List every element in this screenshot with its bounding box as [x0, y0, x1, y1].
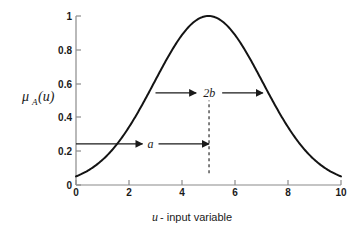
y-tick-label-0: 0 — [66, 180, 72, 191]
y-tick-label-5: 1 — [66, 11, 72, 22]
x-tick-label-2: 4 — [179, 187, 185, 198]
x-axis-caption: u - input variable — [152, 210, 232, 224]
x-tick-label-1: 2 — [126, 187, 132, 198]
y-tick-label-2: 0.4 — [58, 112, 72, 123]
x-axis-caption-variable: u — [152, 210, 158, 224]
y-axis-label-symbol: μ — [21, 89, 29, 104]
y-axis-label-argument: (u) — [38, 89, 55, 105]
center-annotation-label: a — [148, 137, 154, 151]
width-annotation-label: 2b — [203, 86, 215, 100]
x-tick-label-3: 6 — [232, 187, 238, 198]
chart-background — [0, 0, 359, 236]
y-tick-label-4: 0.8 — [58, 45, 72, 56]
x-tick-label-0: 0 — [73, 187, 79, 198]
y-axis-label-subscript: A — [31, 97, 38, 107]
y-tick-label-3: 0.6 — [58, 79, 72, 90]
membership-function-chart: 0 2 4 6 8 10 0 0.2 0.4 0.6 0.8 1 μ A (u)… — [0, 0, 359, 236]
x-tick-label-5: 10 — [335, 187, 347, 198]
x-tick-label-4: 8 — [285, 187, 291, 198]
x-axis-caption-text: - input variable — [160, 211, 232, 223]
y-tick-label-1: 0.2 — [58, 146, 72, 157]
